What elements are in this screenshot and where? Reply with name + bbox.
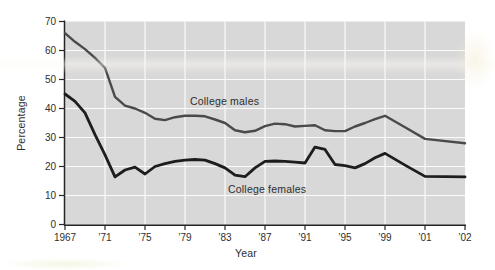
x-tick-label: ’95 [338,232,352,243]
line-chart: 0102030405060701967’71’75’79’83’87’91’95… [0,0,495,270]
x-tick-label: ’02 [458,232,472,243]
y-axis-title: Percentage [15,92,29,154]
y-tick-label: 30 [45,132,57,143]
y-tick-label: 70 [45,16,57,27]
y-tick-label: 50 [45,74,57,85]
x-tick-label: ’75 [138,232,152,243]
x-axis-title: Year [216,247,276,259]
y-tick-label: 20 [45,161,57,172]
y-tick-label: 40 [45,103,57,114]
x-tick-label: ’87 [258,232,272,243]
y-axis-title-text: Percentage [15,95,27,151]
series-label-females: College females [228,183,306,195]
x-tick-label: ’71 [98,232,112,243]
x-tick-label: ’91 [298,232,312,243]
series-label-males: College males [190,95,259,107]
y-tick-label: 60 [45,45,57,56]
x-tick-label: ’83 [218,232,232,243]
y-tick-label: 10 [45,190,57,201]
chart-figure: 0102030405060701967’71’75’79’83’87’91’95… [0,0,495,270]
x-tick-label: ’99 [378,232,392,243]
x-tick-label: ’01 [418,232,432,243]
x-tick-label: 1967 [54,232,77,243]
x-axis-title-text: Year [235,247,257,259]
x-tick-label: ’79 [178,232,192,243]
y-tick-label: 0 [50,219,56,230]
